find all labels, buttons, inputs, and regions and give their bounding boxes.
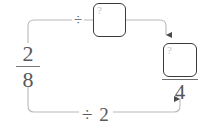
question-mark-icon: ? — [97, 5, 102, 16]
numerator-answer-box[interactable]: ? — [93, 3, 126, 37]
denominator-answer-box[interactable]: ? — [163, 43, 197, 77]
source-fraction: 2 8 — [14, 43, 42, 91]
bottom-operation-label: ÷ 2 — [79, 105, 113, 124]
result-denominator: 4 — [162, 82, 198, 103]
wire-numerator-box-to-denominator-box — [126, 20, 166, 35]
source-denominator: 8 — [23, 69, 34, 91]
fraction-diagram-canvas: 2 8 ÷ ÷ 2 ? ? 4 — [0, 0, 210, 133]
top-operation-label: ÷ — [72, 13, 84, 28]
question-mark-icon: ? — [167, 45, 172, 56]
source-numerator: 2 — [23, 43, 34, 65]
